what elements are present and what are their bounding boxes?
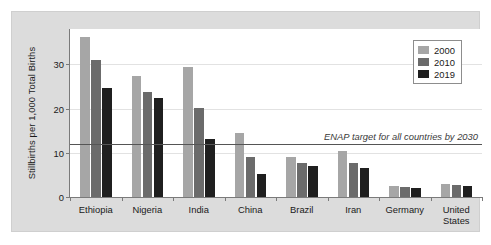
chart-legend: 200020102019	[413, 40, 462, 84]
x-axis-tick-mark	[173, 197, 174, 201]
bar	[400, 187, 410, 197]
legend-swatch	[418, 70, 429, 78]
y-axis-tick-mark	[66, 153, 70, 154]
x-axis-label: Nigeria	[122, 204, 174, 215]
y-axis-title: Stillbirths per 1,000 Total Births	[26, 29, 42, 197]
x-axis-label: Iran	[328, 204, 380, 215]
bar	[452, 185, 462, 197]
x-axis-label: Germany	[379, 204, 431, 215]
legend-swatch	[418, 58, 429, 66]
bar	[257, 174, 267, 197]
chart-figure: 0102030 Stillbirths per 1,000 Total Birt…	[0, 0, 491, 245]
legend-label: 2000	[434, 45, 455, 56]
bar	[183, 67, 193, 197]
x-axis-label: India	[173, 204, 225, 215]
bar	[308, 166, 318, 197]
bar	[389, 186, 399, 197]
x-axis-tick-mark	[276, 197, 277, 201]
bar	[411, 188, 421, 197]
bar	[80, 37, 90, 197]
x-axis-label: China	[225, 204, 277, 215]
legend-label: 2019	[434, 69, 455, 80]
x-axis-tick-mark	[482, 197, 483, 201]
bar	[441, 184, 451, 197]
bar-group	[80, 29, 112, 197]
bar	[194, 108, 204, 197]
bar-group	[132, 29, 164, 197]
x-axis-label: United States	[431, 204, 483, 226]
bar	[463, 186, 473, 197]
legend-item: 2000	[418, 44, 455, 56]
x-axis-tick-mark	[431, 197, 432, 201]
bar	[360, 168, 370, 197]
bar	[205, 139, 215, 197]
x-axis-tick-mark	[328, 197, 329, 201]
legend-swatch	[418, 46, 429, 54]
bar-group	[286, 29, 318, 197]
x-axis-label: Ethiopia	[70, 204, 122, 215]
legend-item: 2010	[418, 56, 455, 68]
x-axis-tick-mark	[225, 197, 226, 201]
legend-item: 2019	[418, 68, 455, 80]
y-axis-tick-mark	[66, 109, 70, 110]
x-axis-tick-mark	[379, 197, 380, 201]
y-axis-tick-mark	[66, 64, 70, 65]
bar	[235, 133, 245, 197]
legend-label: 2010	[434, 57, 455, 68]
bar	[286, 157, 296, 197]
bar	[154, 98, 164, 197]
chart-panel: 0102030 Stillbirths per 1,000 Total Birt…	[11, 11, 480, 232]
bar-group	[235, 29, 267, 197]
bar	[297, 163, 307, 197]
x-axis-tick-mark	[70, 197, 71, 201]
x-axis-label: Brazil	[276, 204, 328, 215]
bar-group	[183, 29, 215, 197]
enap-target-line	[70, 144, 482, 145]
bar	[349, 163, 359, 197]
bar-group	[338, 29, 370, 197]
bar	[338, 151, 348, 197]
bar	[132, 76, 142, 197]
enap-target-label: ENAP target for all countries by 2030	[324, 131, 478, 144]
bar	[246, 157, 256, 197]
x-axis-tick-mark	[122, 197, 123, 201]
bar	[91, 60, 101, 197]
bar	[102, 88, 112, 197]
